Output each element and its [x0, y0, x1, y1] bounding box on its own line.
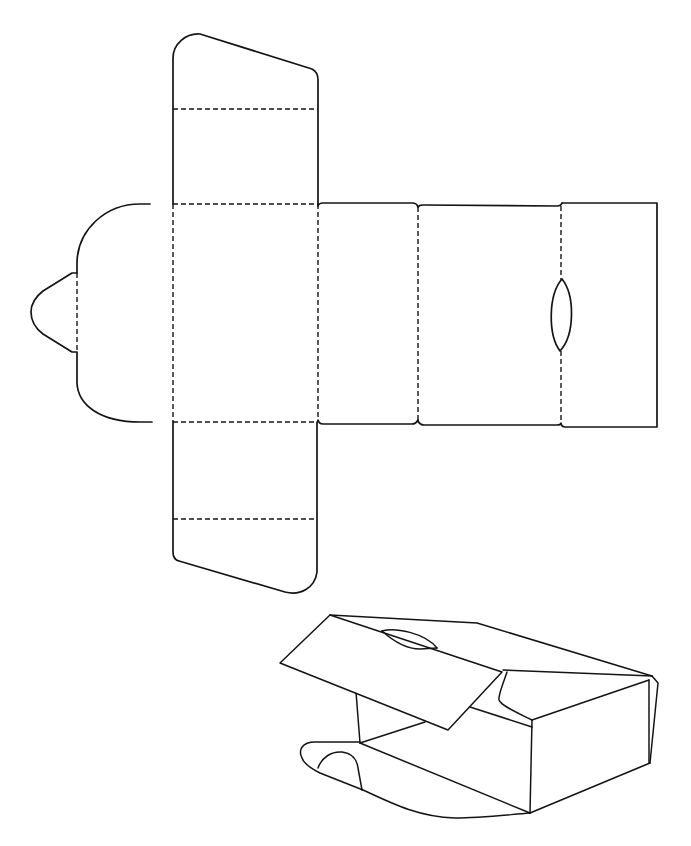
box-right-face-top — [532, 680, 649, 720]
tuck-panel-outline — [561, 203, 657, 427]
box-bottom-flap-tab — [318, 752, 362, 790]
diagram-canvas — [0, 0, 691, 846]
bottom-flap-outline — [173, 422, 317, 593]
box-right-face-bottom — [530, 763, 650, 813]
side-panel — [318, 203, 418, 424]
top-flap — [173, 34, 318, 204]
top-flap-outline — [173, 34, 318, 204]
box-bottom-flap — [301, 742, 530, 818]
box-front-corner — [530, 720, 532, 813]
left-round-flap-outline — [31, 204, 152, 422]
box-inner-floor-line — [360, 722, 425, 743]
box-tuck-curve — [499, 672, 532, 720]
thumb-notch — [551, 279, 571, 351]
box-back-inner-vertical — [356, 692, 360, 743]
box-front-top-edge — [470, 707, 532, 727]
assembled-box — [280, 615, 658, 818]
box-inner-top-edge — [503, 670, 652, 676]
tuck-panel — [551, 203, 657, 427]
box-right-side-outer — [650, 676, 658, 763]
bottom-flap — [173, 422, 317, 593]
box-bottom-diagonal — [360, 743, 530, 813]
flat-net — [31, 34, 657, 593]
left-round-flap — [31, 204, 152, 422]
back-panel-outline — [418, 203, 562, 425]
front-panel — [173, 204, 318, 422]
box-open-lid — [280, 615, 502, 730]
back-panel — [418, 203, 562, 425]
side-panel-outline — [318, 203, 418, 424]
box-template-diagram — [0, 0, 691, 846]
